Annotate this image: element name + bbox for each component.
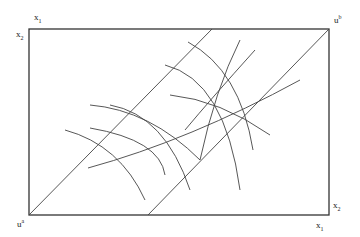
indifference-curve-b4 <box>185 50 255 130</box>
indifference-curve-b2 <box>90 105 200 160</box>
indifference-curve-b5 <box>200 40 240 160</box>
label-ub: ub <box>334 14 342 25</box>
label-top-left-x1: x1 <box>34 13 42 24</box>
indifference-curve-a4 <box>188 42 253 150</box>
contract-line-a <box>29 29 212 215</box>
label-top-left-x2: x2 <box>16 30 24 41</box>
edgeworth-box-diagram <box>0 0 360 237</box>
indifference-curve-a2 <box>110 105 190 190</box>
label-bottom-right-x2: x2 <box>333 201 341 212</box>
label-bottom-right-x1: x1 <box>316 221 324 232</box>
box-frame <box>29 29 329 215</box>
contract-line-b <box>148 29 329 215</box>
indifference-curve-b1 <box>90 128 165 175</box>
label-ua: ua <box>17 218 24 229</box>
